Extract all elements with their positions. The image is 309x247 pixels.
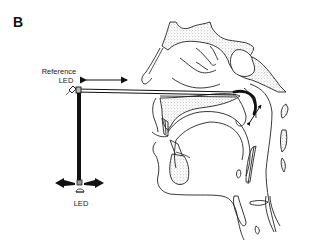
vertical-rod bbox=[77, 93, 81, 181]
nasal-turbinates bbox=[172, 46, 220, 88]
mandible bbox=[170, 154, 189, 185]
bottom-led bbox=[77, 180, 82, 185]
reference-led bbox=[66, 86, 76, 95]
rod-joint bbox=[76, 87, 81, 93]
bottom-led-diode bbox=[76, 189, 84, 192]
anatomical-figure: B Reference LED LED bbox=[0, 0, 309, 247]
skull-bone bbox=[142, 22, 286, 92]
diagram-canvas bbox=[0, 0, 309, 247]
